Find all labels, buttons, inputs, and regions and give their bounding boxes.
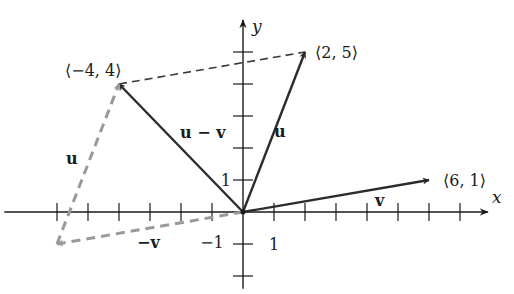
vector-diagram: x y 1 −1 1 ⟨2, 5⟩ ⟨−4, 4⟩ ⟨6, 1⟩ u v u −…	[0, 0, 514, 294]
tick-label-x-minus-1: −1	[200, 233, 224, 252]
point-label-6-1: ⟨6, 1⟩	[443, 171, 486, 190]
vector-label-u: u	[274, 122, 286, 141]
tick-label-y-1: 1	[221, 171, 231, 190]
vector-label-u-translated: u	[66, 149, 78, 168]
tick-label-x-1: 1	[269, 235, 279, 254]
x-axis-label: x	[492, 187, 502, 207]
point-label-neg4-4: ⟨−4, 4⟩	[65, 61, 121, 80]
vector-u-minus-v	[119, 84, 243, 212]
point-label-2-5: ⟨2, 5⟩	[315, 43, 358, 62]
vector-label-neg-v: −v	[137, 233, 160, 252]
y-axis-label: y	[251, 16, 262, 36]
origin-point	[241, 210, 246, 215]
vector-label-u-minus-v: u − v	[180, 123, 226, 142]
vector-label-v: v	[374, 191, 385, 210]
connector-dashed-line	[119, 52, 305, 84]
